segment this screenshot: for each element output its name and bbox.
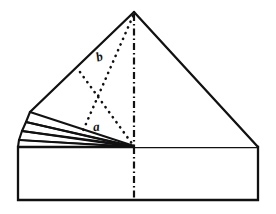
flap-leaf-4-spine xyxy=(18,140,19,147)
main-triangle-flap xyxy=(30,12,258,147)
flap-leaf-3-spine xyxy=(19,131,22,140)
flap-leaf-2-spine xyxy=(22,122,26,131)
fold-diagram-canvas xyxy=(0,0,276,214)
origami-figure-root: b a xyxy=(0,0,276,214)
base-rectangle xyxy=(18,147,258,200)
angle-label-a: a xyxy=(92,120,100,134)
flap-leaf-1-spine xyxy=(26,112,30,122)
base-rectangle-outline xyxy=(18,147,258,200)
